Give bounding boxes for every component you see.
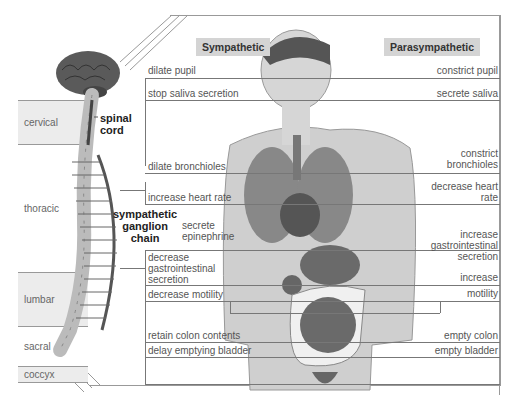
motility-bracket [230, 301, 231, 313]
sym-effect-motility: decrease motility [148, 289, 223, 300]
para-effect-heart: decrease heart rate [428, 181, 498, 203]
motility-bracket-h [230, 313, 440, 314]
sym-effect-epinephrine: secrete epinephrine [182, 220, 242, 242]
divider-bronchioles [145, 173, 500, 174]
header-parasympathetic: Parasympathetic [384, 38, 480, 56]
divider-bottom [145, 384, 500, 385]
sym-effect-heart: increase heart rate [148, 192, 231, 203]
divider-saliva [145, 100, 500, 101]
sympathetic-bracket [145, 78, 146, 166]
motility-bracket-r [440, 301, 441, 313]
sym-effect-bladder: delay emptying bladder [148, 345, 251, 356]
sympathetic-bracket-gi [145, 250, 146, 384]
sym-effect-saliva: stop saliva secretion [148, 88, 239, 99]
sym-effect-gi: decrease gastrointestinal secretion [148, 252, 233, 285]
para-effect-colon: empty colon [444, 330, 498, 341]
para-effect-bladder: empty bladder [435, 345, 498, 356]
para-effect-bronchioles: constrict bronchioles [428, 148, 498, 170]
header-sympathetic: Sympathetic [196, 38, 270, 56]
divider-pupil [145, 78, 500, 79]
para-effect-saliva: secrete saliva [437, 88, 498, 99]
divider-bladder [145, 357, 500, 358]
heart-icon [280, 193, 320, 237]
divider-colon [145, 342, 500, 343]
sym-effect-bronchioles: dilate bronchioles [148, 161, 226, 172]
intestine-icon [300, 297, 356, 353]
sym-effect-pupil: dilate pupil [148, 65, 196, 76]
stomach-icon [300, 245, 360, 285]
divider-heart [145, 204, 500, 205]
para-effect-gi: increase gastrointestinal secretion [416, 229, 498, 262]
para-effect-pupil: constrict pupil [437, 65, 498, 76]
connector-sympathetic [120, 190, 145, 191]
para-effect-motility: increase motility [438, 270, 498, 302]
connector-gi [120, 268, 145, 269]
sympathetic-bracket-lower [145, 182, 146, 204]
sym-effect-colon: retain colon contents [148, 330, 240, 341]
